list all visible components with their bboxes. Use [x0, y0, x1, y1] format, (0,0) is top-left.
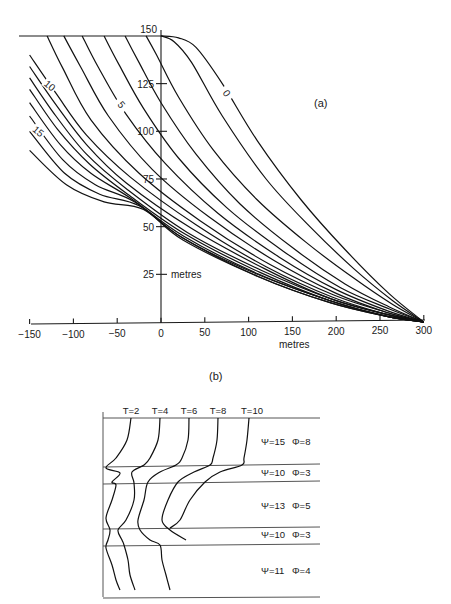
y-ticks: 255075100125150 [137, 24, 167, 280]
curve-15 [30, 150, 424, 322]
panel-b-plot: (b) T=2T=4T=6T=8T=10 Ψ=15Φ=8Ψ=10Φ=3Ψ=13Φ… [103, 370, 320, 598]
x-tick-label: 200 [328, 326, 345, 337]
x-axis [31, 320, 425, 324]
layer-line-2 [103, 481, 320, 484]
curves-b [106, 418, 249, 590]
y-tick-label: 100 [137, 126, 154, 137]
x-tick-label: 0 [158, 328, 164, 339]
y-tick-label: 50 [143, 222, 155, 233]
y-unit-label: metres [171, 269, 202, 280]
layer-line-3 [103, 527, 320, 529]
panel-a-label: (a) [314, 97, 327, 109]
x-tick-label: 100 [240, 327, 257, 338]
curve-7 [47, 36, 424, 322]
layer-phi-label: Φ=4 [292, 565, 310, 576]
curve-6 [64, 36, 424, 322]
layer-psi-label: Ψ=10 [261, 529, 285, 540]
x-tick-label: 300 [415, 325, 432, 336]
y-tick-label: 25 [143, 269, 155, 280]
x-unit-label: metres [279, 339, 310, 350]
x-tick-label: −100 [62, 329, 85, 340]
layer-phi-label: Φ=8 [292, 436, 310, 447]
curve-11 [30, 89, 424, 322]
layer-labels: Ψ=15Φ=8Ψ=10Φ=3Ψ=13Φ=5Ψ=10Φ=3Ψ=11Φ=4 [261, 436, 310, 576]
time-label: T=10 [241, 405, 263, 416]
curve-9 [30, 67, 424, 323]
profile-T=10 [170, 418, 249, 528]
time-label: T=4 [152, 405, 169, 416]
layer-psi-label: Ψ=13 [261, 500, 285, 511]
curve-label: 10 [42, 78, 58, 94]
layer-psi-label: Ψ=11 [261, 565, 284, 576]
y-tick-label: 75 [143, 174, 155, 185]
layer-line-bottom [103, 597, 320, 598]
layer-phi-label: Φ=5 [292, 500, 310, 511]
curve-labels: 051015 [30, 76, 237, 140]
layer-phi-label: Φ=3 [292, 467, 310, 478]
time-label: T=6 [181, 405, 198, 416]
curves-a [30, 36, 424, 322]
curve-14 [30, 131, 424, 322]
panel-a-plot: −150−100−50050100150200250300 2550751001… [18, 24, 432, 350]
time-labels: T=2T=4T=6T=8T=10 [123, 405, 263, 416]
figure: −150−100−50050100150200250300 2550751001… [0, 0, 451, 604]
profile-T=6 [138, 418, 189, 590]
panel-b-label: (b) [209, 370, 222, 382]
layer-line-4 [103, 544, 320, 546]
x-tick-label: −50 [109, 328, 126, 339]
y-tick-label: 150 [140, 24, 157, 35]
x-ticks: −150−100−50050100150200250300 [18, 315, 432, 340]
layer-psi-label: Ψ=15 [261, 436, 285, 447]
time-label: T=2 [123, 405, 140, 416]
x-tick-label: 50 [199, 327, 211, 338]
profile-T=4 [118, 418, 160, 590]
layer-phi-label: Φ=3 [292, 529, 310, 540]
curve-12 [30, 103, 424, 322]
time-label: T=8 [210, 405, 227, 416]
layer-psi-label: Ψ=10 [261, 467, 285, 478]
x-tick-label: −150 [18, 329, 41, 340]
x-tick-label: 150 [284, 326, 301, 337]
profile-T=2 [106, 418, 131, 590]
x-tick-label: 250 [372, 325, 389, 336]
profile-T=8 [162, 418, 218, 540]
